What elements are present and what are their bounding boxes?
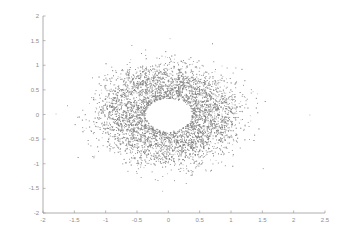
outlier-point xyxy=(162,191,163,192)
x-tick-label: -1 xyxy=(103,217,109,223)
y-tick-label: 1.5 xyxy=(31,38,40,44)
y-tick-label: 0 xyxy=(36,112,40,118)
x-tick-label: 0.5 xyxy=(195,217,204,223)
x-tick-label: -1.5 xyxy=(69,217,80,223)
x-tick-label: -0.5 xyxy=(132,217,143,223)
x-tick-label: 1.5 xyxy=(258,217,267,223)
y-tick-label: -1.5 xyxy=(29,185,40,191)
x-axis-ticks: -2-1.5-1-0.500.511.522.5 xyxy=(40,211,330,224)
y-tick-label: -1 xyxy=(34,161,40,167)
y-tick-label: -2 xyxy=(34,210,40,216)
outlier-point xyxy=(56,114,57,115)
x-tick-label: 2 xyxy=(292,217,296,223)
y-tick-label: 2 xyxy=(36,13,40,19)
y-tick-label: -0.5 xyxy=(29,136,40,142)
x-tick-label: 1 xyxy=(229,217,233,223)
y-tick-label: 1 xyxy=(36,62,40,68)
outlier-point xyxy=(309,115,310,116)
scatter-chart: -2-1.5-1-0.500.511.522.5 21.510.50-0.5-1… xyxy=(0,0,344,237)
axes: -2-1.5-1-0.500.511.522.5 21.510.50-0.5-1… xyxy=(29,13,330,223)
x-tick-label: 0 xyxy=(167,217,171,223)
y-tick-label: 0.5 xyxy=(31,87,40,93)
x-tick-label: -2 xyxy=(40,217,46,223)
outlier-point xyxy=(170,38,171,39)
scatter-points xyxy=(56,38,311,192)
x-tick-label: 2.5 xyxy=(321,217,330,223)
